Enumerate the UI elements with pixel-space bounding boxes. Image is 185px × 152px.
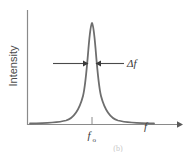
linewidth-label: Δf	[126, 57, 138, 69]
x-axis-label: f	[144, 120, 149, 132]
plot-canvas: Δf f o f Intensity (b)	[0, 0, 185, 152]
spectral-lineshape-figure: Δf f o f Intensity (b)	[0, 0, 185, 152]
x-axis-arrowhead-icon	[177, 121, 183, 128]
figure-caption: (b)	[113, 144, 123, 152]
center-frequency-subscript: o	[93, 136, 97, 144]
y-axis-label: Intensity	[7, 45, 19, 86]
lorentzian-curve	[30, 23, 154, 124]
